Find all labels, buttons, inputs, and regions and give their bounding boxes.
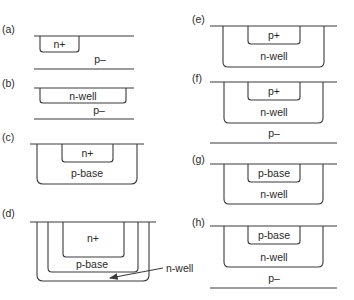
- panel-h-label: (h): [192, 216, 205, 228]
- panel-a-label: (a): [2, 23, 15, 35]
- panel-h: (h) p-base n-well p–: [192, 216, 337, 288]
- panel-f-label: (f): [192, 72, 202, 84]
- p-base-label: p-base: [258, 167, 290, 179]
- p-plus-label: p+: [268, 85, 280, 97]
- n-well-label: n-well: [260, 251, 287, 263]
- p-plus-label: p+: [268, 29, 280, 41]
- panel-f: (f) p+ n-well p–: [192, 72, 337, 143]
- panel-c: (c) n+ p-base: [2, 131, 144, 184]
- n-plus-label: n+: [54, 38, 66, 50]
- n-well-label: n-well: [260, 188, 287, 200]
- n-well-label: n-well: [260, 106, 287, 118]
- panel-e-label: (e): [192, 13, 205, 25]
- p-base-label: p-base: [76, 258, 108, 270]
- n-well-label: n-well: [69, 90, 96, 102]
- panel-b-label: (b): [2, 77, 15, 89]
- n-plus-label: n+: [87, 232, 99, 244]
- panel-d: (d) n+ p-base n-well: [2, 207, 193, 281]
- panel-d-label: (d): [2, 207, 15, 219]
- panel-a: (a) n+ p–: [2, 23, 134, 69]
- panel-e: (e) p+ n-well: [192, 13, 337, 67]
- panel-b: (b) n-well p–: [2, 77, 134, 119]
- n-plus-label: n+: [82, 147, 94, 159]
- p-base-label: p-base: [258, 229, 290, 241]
- diffusion-profiles-diagram: (a) n+ p– (b) n-well p– (c) n+ p-base (d…: [0, 0, 354, 300]
- panel-g-label: (g): [192, 153, 205, 165]
- arrow-icon: [110, 268, 163, 278]
- n-well-annotation: n-well: [166, 262, 193, 274]
- substrate-label: p–: [268, 272, 280, 284]
- substrate-label: p–: [94, 53, 106, 65]
- panel-g: (g) p-base n-well: [192, 153, 337, 204]
- p-base-label: p-base: [71, 167, 103, 179]
- substrate-label: p–: [268, 127, 280, 139]
- panel-c-label: (c): [2, 131, 14, 143]
- n-well-label: n-well: [260, 50, 287, 62]
- substrate-label: p–: [93, 104, 105, 116]
